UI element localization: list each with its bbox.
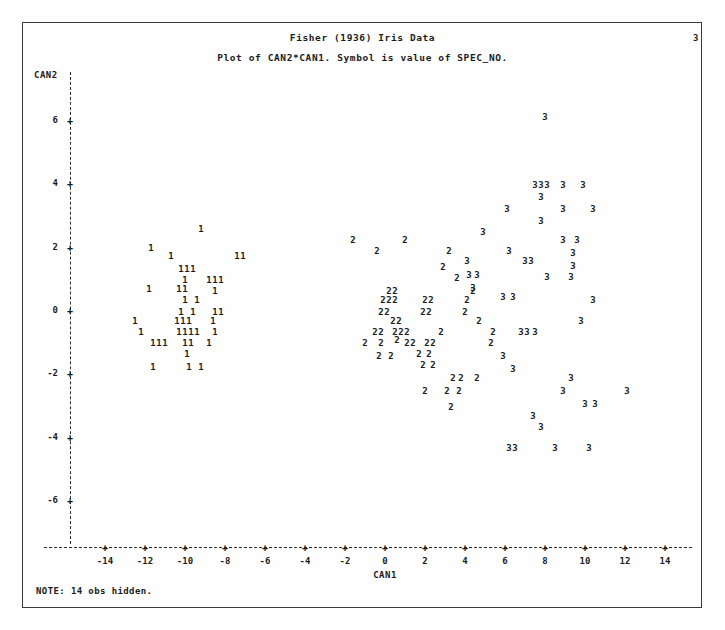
x-tick-mark: + [262, 542, 268, 553]
data-point-symbol-2: 2 [378, 307, 383, 316]
data-point-symbol-2: 2 [420, 361, 425, 370]
y-tick-label: -2 [47, 368, 58, 378]
x-tick-mark: + [462, 542, 468, 553]
data-point-symbol-3: 3 [512, 443, 517, 452]
data-point-symbol-3: 3 [538, 193, 543, 202]
data-point-symbol-1: 1 [176, 285, 181, 294]
data-point-symbol-2: 2 [372, 328, 377, 337]
x-tick-label: 10 [580, 556, 591, 566]
plot-area: CAN2 CAN1 6+4+2+0+-2+-4+-6+ +-14+-12+-10… [0, 0, 725, 630]
data-point-symbol-2: 2 [388, 351, 393, 360]
x-tick-label: 8 [542, 556, 547, 566]
x-tick-label: -12 [137, 556, 153, 566]
data-point-symbol-2: 2 [440, 263, 445, 272]
data-point-symbol-2: 2 [446, 247, 451, 256]
data-point-symbol-2: 2 [438, 328, 443, 337]
x-tick-label: 14 [660, 556, 671, 566]
data-point-symbol-1: 1 [184, 350, 189, 359]
data-point-symbol-2: 2 [448, 402, 453, 411]
data-point-symbol-1: 1 [198, 225, 203, 234]
report-page: 3 Fisher (1936) Iris Data Plot of CAN2*C… [0, 0, 725, 630]
data-point-symbol-2: 2 [392, 296, 397, 305]
y-tick-mark: + [67, 241, 73, 252]
data-point-symbol-2: 2 [422, 386, 427, 395]
data-point-symbol-2: 2 [430, 339, 435, 348]
data-point-symbol-1: 1 [176, 328, 181, 337]
data-point-symbol-3: 3 [574, 236, 579, 245]
data-point-symbol-3: 3 [532, 328, 537, 337]
data-point-symbol-2: 2 [454, 274, 459, 283]
y-tick-label: -4 [47, 432, 58, 442]
data-point-symbol-1: 1 [184, 264, 189, 273]
data-point-symbol-1: 1 [218, 275, 223, 284]
x-tick-mark: + [622, 542, 628, 553]
data-point-symbol-3: 3 [590, 204, 595, 213]
x-tick-label: -6 [260, 556, 271, 566]
x-tick-mark: + [502, 542, 508, 553]
x-tick-label: 12 [620, 556, 631, 566]
data-point-symbol-2: 2 [378, 339, 383, 348]
data-point-symbol-2: 2 [462, 307, 467, 316]
data-point-symbol-3: 3 [568, 272, 573, 281]
data-point-symbol-2: 2 [488, 339, 493, 348]
data-point-symbol-1: 1 [198, 363, 203, 372]
data-point-symbol-2: 2 [386, 296, 391, 305]
data-point-symbol-3: 3 [510, 364, 515, 373]
x-tick-mark: + [342, 542, 348, 553]
x-tick-mark: + [142, 542, 148, 553]
data-point-symbol-3: 3 [506, 247, 511, 256]
x-tick-label: -14 [97, 556, 113, 566]
data-point-symbol-1: 1 [212, 328, 217, 337]
x-tick-mark: + [542, 542, 548, 553]
data-point-symbol-3: 3 [624, 386, 629, 395]
data-point-symbol-2: 2 [474, 374, 479, 383]
data-point-symbol-3: 3 [500, 293, 505, 302]
data-point-symbol-1: 1 [186, 363, 191, 372]
data-point-symbol-1: 1 [240, 252, 245, 261]
y-tick-mark: + [67, 305, 73, 316]
data-point-symbol-2: 2 [426, 350, 431, 359]
data-point-symbol-2: 2 [384, 307, 389, 316]
data-point-symbol-3: 3 [464, 256, 469, 265]
data-point-symbol-1: 1 [188, 339, 193, 348]
data-point-symbol-2: 2 [422, 296, 427, 305]
data-point-symbol-3: 3 [538, 217, 543, 226]
x-tick-label: -4 [300, 556, 311, 566]
data-point-symbol-2: 2 [490, 328, 495, 337]
data-point-symbol-1: 1 [156, 339, 161, 348]
data-point-symbol-1: 1 [174, 317, 179, 326]
data-point-symbol-3: 3 [530, 412, 535, 421]
data-point-symbol-2: 2 [390, 317, 395, 326]
data-point-symbol-1: 1 [190, 264, 195, 273]
data-point-symbol-3: 3 [538, 423, 543, 432]
data-point-symbol-1: 1 [186, 317, 191, 326]
x-tick-mark: + [662, 542, 668, 553]
x-tick-label: 6 [502, 556, 507, 566]
x-tick-label: 2 [422, 556, 427, 566]
data-point-symbol-3: 3 [582, 399, 587, 408]
data-point-symbol-3: 3 [570, 261, 575, 270]
data-point-symbol-3: 3 [578, 317, 583, 326]
x-tick-label: 0 [382, 556, 387, 566]
data-point-symbol-1: 1 [212, 286, 217, 295]
data-point-symbol-1: 1 [206, 275, 211, 284]
y-tick-mark: + [67, 178, 73, 189]
data-point-symbol-3: 3 [522, 256, 527, 265]
x-tick-label: -10 [177, 556, 193, 566]
data-point-symbol-1: 1 [234, 252, 239, 261]
data-point-symbol-2: 2 [456, 386, 461, 395]
data-point-symbol-3: 3 [470, 283, 475, 292]
y-tick-label: 6 [53, 115, 58, 125]
data-point-symbol-3: 3 [532, 180, 537, 189]
data-point-symbol-2: 2 [426, 307, 431, 316]
data-point-symbol-2: 2 [416, 350, 421, 359]
data-point-symbol-2: 2 [376, 351, 381, 360]
data-point-symbol-3: 3 [590, 296, 595, 305]
data-point-symbol-3: 3 [466, 271, 471, 280]
data-point-symbol-3: 3 [544, 272, 549, 281]
data-point-symbol-3: 3 [542, 112, 547, 121]
data-point-symbol-2: 2 [378, 328, 383, 337]
y-tick-label: 0 [53, 305, 58, 315]
data-point-symbol-3: 3 [518, 328, 523, 337]
data-point-symbol-3: 3 [580, 180, 585, 189]
